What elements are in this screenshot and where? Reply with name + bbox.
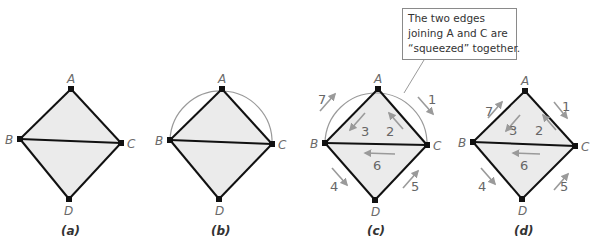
vertex-c [118, 140, 124, 146]
vertex-label-c: C [127, 137, 136, 151]
vertex-a [522, 88, 528, 94]
diagram-c: 1 2 3 4 5 6 7 A B C D (c) [310, 60, 442, 238]
vertex-label-b: B [155, 134, 163, 148]
vertex-label-b: B [310, 137, 318, 151]
vertex-d [519, 196, 525, 202]
vertex-label-d: D [518, 204, 527, 218]
vertex-label-d: D [371, 205, 380, 219]
caption-c: (c) [367, 224, 385, 238]
vertex-label-a: A [373, 72, 382, 86]
vertex-b [470, 139, 476, 145]
arrow-step-6 [365, 153, 395, 154]
vertex-d [216, 196, 222, 202]
graph-face [20, 89, 121, 199]
step-label-5: 5 [560, 179, 568, 194]
step-label-7: 7 [485, 104, 493, 119]
step-label-3: 3 [509, 123, 517, 138]
diagram-a: A B C D (a) [5, 72, 136, 238]
vertex-label-a: A [520, 74, 529, 88]
vertex-label-a: A [66, 72, 75, 86]
step-label-4: 4 [330, 179, 338, 194]
step-label-6: 6 [520, 158, 528, 173]
vertex-label-c: C [433, 139, 442, 153]
vertex-b [167, 137, 173, 143]
step-label-1: 1 [428, 92, 436, 107]
vertex-c [269, 141, 275, 147]
vertex-b [322, 140, 328, 146]
vertex-label-b: B [5, 133, 13, 147]
diagram-b: A B C D (b) [155, 72, 287, 238]
diagram-d: 1 2 3 4 5 6 7 A B C D (d) [458, 74, 590, 238]
vertex-label-a: A [217, 72, 226, 86]
callout-line-3: “squeezed” together. [408, 41, 516, 56]
step-label-5: 5 [411, 179, 419, 194]
vertex-label-d: D [215, 204, 224, 218]
vertex-b [17, 136, 23, 142]
caption-a: (a) [61, 224, 80, 238]
caption-b: (b) [211, 224, 231, 238]
vertex-c [572, 143, 578, 149]
vertex-label-b: B [458, 136, 466, 150]
step-label-1: 1 [562, 99, 570, 114]
vertex-label-c: C [278, 138, 287, 152]
step-label-2: 2 [386, 124, 394, 139]
arrow-step-6 [513, 153, 540, 154]
vertex-a [375, 86, 381, 92]
step-label-4: 4 [478, 179, 486, 194]
vertex-label-c: C [581, 140, 590, 154]
vertex-label-d: D [64, 204, 73, 218]
caption-d: (d) [514, 224, 534, 238]
step-label-6: 6 [373, 158, 381, 173]
vertex-a [219, 86, 225, 92]
callout-box: The two edges joining A and C are “squee… [402, 8, 517, 60]
vertex-d [372, 197, 378, 203]
vertex-c [424, 142, 430, 148]
step-label-7: 7 [318, 92, 326, 107]
callout-leader [404, 60, 424, 93]
vertex-d [66, 196, 72, 202]
callout-line-1: The two edges [408, 11, 516, 26]
step-label-3: 3 [361, 124, 369, 139]
callout-line-2: joining A and C are [408, 26, 516, 41]
step-label-2: 2 [535, 123, 543, 138]
vertex-a [68, 86, 74, 92]
